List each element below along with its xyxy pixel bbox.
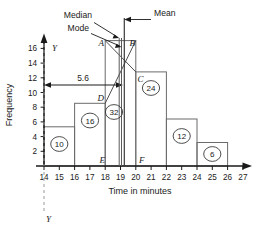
mode-callout-label: Mode <box>68 23 90 33</box>
measure-arrow-label: 5.6 <box>77 73 89 83</box>
y-tick-labels: 2 4 6 8 10 12 14 16 <box>28 44 38 156</box>
point-label-e: E <box>99 155 106 165</box>
x-tick-17: 17 <box>85 173 95 182</box>
x-tick-16: 16 <box>70 173 80 182</box>
x-tick-20: 20 <box>131 173 141 182</box>
svg-text:12: 12 <box>177 132 186 141</box>
chart-canvas: 2 4 6 8 10 12 14 16 Frequency <box>0 0 262 232</box>
histogram-figure: 2 4 6 8 10 12 14 16 Frequency <box>0 0 262 232</box>
bar-marker-16-18: 16 <box>81 113 98 128</box>
x-tick-25: 25 <box>208 173 218 182</box>
x-tick-21: 21 <box>147 173 157 182</box>
y-tick-12: 12 <box>28 74 38 83</box>
mode-construction-lines <box>105 41 136 104</box>
y-tick-8: 8 <box>32 103 37 112</box>
measure-arrow-5-6 <box>44 82 123 88</box>
point-label-f: F <box>138 155 145 165</box>
bar-marker-18-20: 32 <box>105 105 122 120</box>
point-label-d: D <box>97 93 105 103</box>
point-label-c: C <box>138 74 145 84</box>
mean-callout-label: Mean <box>154 8 176 18</box>
bar-marker-20-22: 24 <box>142 81 159 96</box>
bar-18-20 <box>105 41 136 166</box>
x-tick-18: 18 <box>101 173 111 182</box>
point-label-b: B <box>130 38 136 48</box>
x-tick-26: 26 <box>223 173 233 182</box>
median-callout-label: Median <box>64 10 92 20</box>
histogram-bars <box>44 41 228 166</box>
point-label-a: A <box>98 38 105 48</box>
y-tick-14: 14 <box>28 59 38 68</box>
svg-text:10: 10 <box>55 140 64 149</box>
x-axis-title: Time in minutes <box>108 186 172 196</box>
y-axis-title: Frequency <box>4 83 14 126</box>
y-tick-16: 16 <box>28 44 38 53</box>
x-tick-24: 24 <box>192 173 202 182</box>
y-tick-6: 6 <box>32 118 37 127</box>
svg-text:6: 6 <box>210 150 215 159</box>
x-tick-27: 27 <box>238 173 248 182</box>
y-tick-2: 2 <box>32 147 37 156</box>
y-tick-10: 10 <box>28 89 38 98</box>
bar-marker-22-24: 12 <box>173 129 190 144</box>
x-tick-19: 19 <box>116 173 126 182</box>
bar-22-24 <box>166 119 197 166</box>
y-tick-4: 4 <box>32 133 37 142</box>
svg-text:32: 32 <box>110 108 119 117</box>
bar-marker-14-16: 10 <box>51 137 68 152</box>
x-tick-15: 15 <box>55 173 65 182</box>
x-tick-23: 23 <box>177 173 187 182</box>
svg-text:24: 24 <box>147 84 156 93</box>
svg-text:16: 16 <box>86 117 95 126</box>
reference-label-top: Y <box>52 43 58 53</box>
reference-label-bottom: Y <box>46 214 52 224</box>
bar-marker-24-26: 6 <box>204 147 221 162</box>
x-tick-22: 22 <box>162 173 172 182</box>
x-tick-labels: 14 15 16 17 18 19 20 21 22 23 24 25 26 2… <box>39 173 247 182</box>
